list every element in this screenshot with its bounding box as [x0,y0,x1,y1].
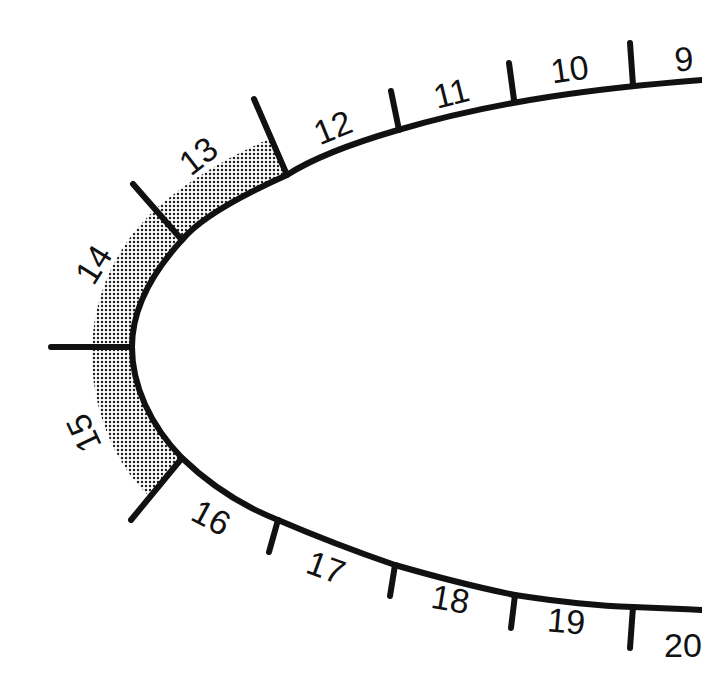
tick-10-11 [509,63,514,100]
tick-17-18 [390,565,395,596]
segmented-outline-diagram: 9 10 11 12 13 14 15 16 17 18 19 20 [0,0,702,695]
tick-18-19 [511,595,515,628]
segment-label-20: 20 [664,626,702,664]
tick-16-17 [269,520,278,552]
segment-label-19: 19 [546,600,587,641]
segment-label-10: 10 [548,48,591,91]
tick-11-12 [391,91,399,130]
segment-label-15: 15 [58,408,108,458]
segment-label-9: 9 [673,39,695,78]
segment-label-11: 11 [430,70,473,115]
tick-9-10 [630,43,633,85]
tick-19-20 [630,607,633,648]
segment-label-16: 16 [186,492,237,543]
segment-label-17: 17 [302,543,351,592]
segment-label-18: 18 [429,577,473,621]
